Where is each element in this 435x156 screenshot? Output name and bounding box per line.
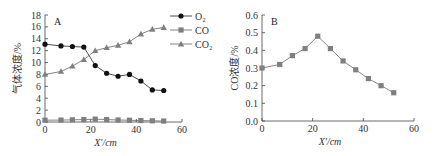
o2-marker	[161, 88, 166, 93]
co-marker	[115, 117, 120, 122]
x-axis-label: X'/cm	[318, 136, 342, 147]
legend-label: CO₂	[195, 39, 212, 50]
co-marker	[81, 117, 86, 122]
chart-b: 0.00.10.20.30.40.50.60204060X'/cmCO浓度/%B	[228, 10, 419, 148]
co2-marker	[58, 68, 64, 74]
co-marker	[366, 76, 371, 81]
o2-marker	[150, 87, 155, 92]
y-tick-label: 2	[36, 105, 41, 116]
y-tick-label: 16	[31, 21, 41, 32]
co-marker	[378, 83, 383, 88]
y-tick-label: 12	[31, 45, 41, 56]
y-tick-label: 4	[36, 93, 41, 104]
x-tick-label: 20	[86, 124, 96, 135]
legend-item-o2: O₂	[170, 11, 206, 22]
co-marker	[340, 58, 345, 63]
y-tick-label: 0.4	[246, 45, 259, 56]
y-tick-label: 0.6	[246, 10, 259, 21]
co-marker	[58, 117, 63, 122]
series-co	[259, 34, 396, 96]
legend-o2-marker	[178, 13, 183, 18]
co-marker	[328, 46, 333, 51]
co2-marker	[81, 56, 87, 62]
o2-marker	[93, 63, 98, 68]
co-marker	[150, 118, 155, 123]
legend-item-co: CO	[170, 25, 209, 36]
panel-label: A	[54, 16, 62, 27]
y-axis-label: CO浓度/%	[228, 46, 240, 91]
o2-marker	[81, 45, 86, 50]
co-marker	[290, 53, 295, 58]
co-marker	[93, 117, 98, 122]
y-tick-label: 0.1	[246, 98, 259, 109]
x-tick-label: 20	[308, 123, 318, 134]
co-marker	[104, 117, 109, 122]
series-co2	[42, 24, 167, 77]
y-tick-label: 0.2	[246, 80, 259, 91]
y-tick-label: 0.3	[246, 63, 259, 74]
legend-co-marker	[178, 27, 183, 32]
x-tick-label: 60	[409, 123, 419, 134]
co-marker	[302, 46, 307, 51]
y-tick-label: 8	[36, 69, 41, 80]
legend-label: CO	[195, 25, 209, 36]
co-marker	[70, 117, 75, 122]
legend-label: O₂	[195, 11, 206, 22]
o2-marker	[42, 42, 47, 47]
co-marker	[353, 67, 358, 72]
co-marker	[391, 90, 396, 95]
x-tick-label: 0	[260, 123, 265, 134]
co2-marker	[69, 63, 75, 69]
co-marker	[161, 118, 166, 123]
y-tick-label: 0.5	[246, 27, 259, 38]
co-marker	[138, 118, 143, 123]
legend: O₂COCO₂	[170, 11, 212, 50]
y-tick-label: 14	[31, 33, 41, 44]
y-tick-label: 0.0	[246, 116, 259, 127]
x-tick-label: 0	[43, 124, 48, 135]
y-axis-label: 气体浓度/%	[11, 43, 23, 94]
figure: 0246810121416180204060X'/cm气体浓度/%A0.00.1…	[0, 0, 435, 156]
panel-label: B	[271, 16, 278, 27]
y-tick-label: 18	[31, 10, 41, 21]
o2-marker	[138, 78, 143, 83]
o2-marker	[58, 43, 63, 48]
x-axis-label: X'/cm	[93, 137, 117, 148]
co2-marker	[161, 24, 167, 30]
o2-marker	[70, 44, 75, 49]
co2-marker	[126, 39, 132, 45]
o2-marker	[115, 74, 120, 79]
co2-marker	[138, 31, 144, 37]
x-tick-label: 40	[358, 123, 368, 134]
co-marker	[277, 62, 282, 67]
y-tick-label: 10	[31, 57, 41, 68]
y-tick-label: 0	[36, 117, 41, 128]
x-tick-label: 40	[131, 124, 141, 135]
co-marker	[259, 65, 264, 70]
series-co	[42, 117, 166, 124]
chart-a: 0246810121416180204060X'/cm气体浓度/%A	[11, 10, 187, 149]
x-tick-label: 60	[177, 124, 187, 135]
y-tick-label: 6	[36, 81, 41, 92]
o2-marker	[127, 72, 132, 77]
co-marker	[315, 34, 320, 39]
co-marker	[127, 118, 132, 123]
o2-marker	[104, 71, 109, 76]
co-marker	[42, 118, 47, 123]
legend-item-co2: CO₂	[170, 39, 212, 50]
